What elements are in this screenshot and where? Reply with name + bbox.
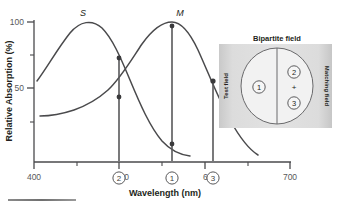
bipartite-field-inset: Bipartite field Test field Matching fiel… [219,34,332,128]
inset-item-1: 1 [253,81,265,93]
inset-item-2-label: 2 [292,68,296,77]
inset-right-label: Matching field [324,66,330,107]
reference-marker-1-upper [170,24,175,29]
footer-rule [8,199,76,201]
inset-left-label: Test field [223,73,229,99]
inset-plus-operator: + [292,83,297,92]
x-tick-label-700: 700 [283,172,297,182]
inset-item-2: 2 [288,66,300,78]
axis-marker-2-label: 2 [117,174,122,183]
absorption-spectrum-figure: 100 50 400 500 600 700 Wavelength (nm) R… [0,0,341,209]
curve-label-m: M [176,8,184,18]
axis-marker-3: 3 [207,172,219,184]
reference-line-1 [170,24,175,161]
reference-marker-1-lower [170,142,175,147]
reference-marker-2-lower [117,95,122,100]
reference-line-2 [117,56,122,161]
curve-s [37,22,190,156]
inset-item-3: 3 [288,97,300,109]
axis-marker-2: 2 [113,172,125,184]
curve-label-s: S [80,8,86,18]
reference-marker-3 [210,78,215,83]
reference-line-3 [210,78,215,161]
inset-item-3-label: 3 [292,99,296,108]
inset-title: Bipartite field [253,34,301,43]
inset-item-1-label: 1 [257,83,261,92]
reference-marker-2-upper [117,56,122,61]
y-axis-title: Relative Absorption (%) [4,40,14,141]
x-tick-label-400: 400 [27,172,41,182]
x-axis-title: Wavelength (nm) [129,188,201,198]
y-tick-label-100: 100 [10,17,24,27]
axis-marker-1: 1 [166,172,178,184]
figure-svg: 100 50 400 500 600 700 Wavelength (nm) R… [0,0,341,209]
y-tick-label-50: 50 [15,83,25,93]
axis-marker-1-label: 1 [170,174,175,183]
axis-marker-3-label: 3 [211,174,216,183]
